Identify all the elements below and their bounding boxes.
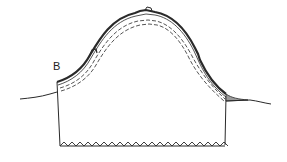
left-wall [57,82,60,146]
left-ground-line [20,92,57,99]
arch-inner-solid-line [58,14,226,97]
right-ground-line [226,100,271,104]
diagram-svg [0,0,287,162]
zigzag-teeth [60,142,228,146]
cross-section-diagram: B [0,0,287,162]
arch-outer-line [57,10,226,94]
label-b: B [53,60,60,72]
right-wall [225,96,226,145]
